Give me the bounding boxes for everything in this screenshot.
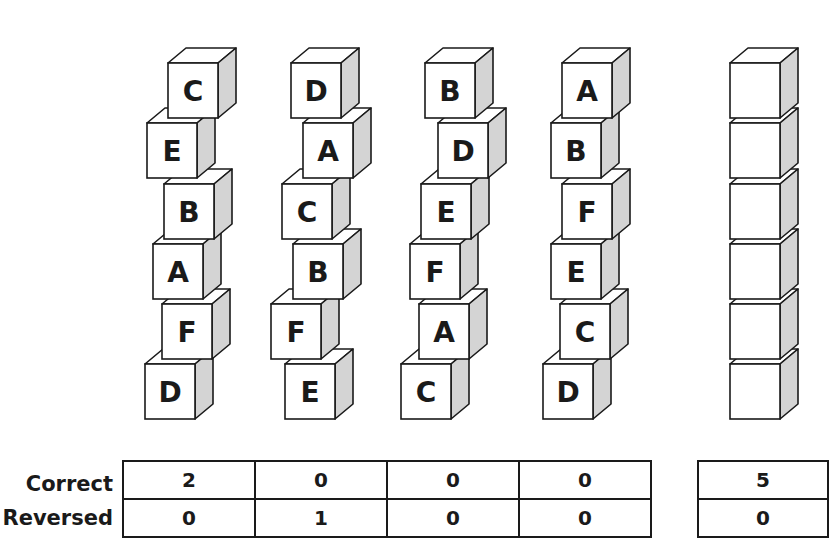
letter-block: B xyxy=(164,169,232,239)
stack-1: DFABEC xyxy=(145,48,236,419)
block-front-face xyxy=(730,244,780,299)
letter-block xyxy=(730,169,798,239)
target-correct-cell: 5 xyxy=(698,461,828,499)
block-letter: B xyxy=(307,256,328,289)
correct-cell: 0 xyxy=(255,461,387,499)
letter-block: B xyxy=(425,48,493,118)
block-front-face xyxy=(730,184,780,239)
letter-block: D xyxy=(291,48,359,118)
block-letter: A xyxy=(576,75,598,108)
block-letter: A xyxy=(433,316,455,349)
stack-target xyxy=(730,48,798,419)
letter-block: A xyxy=(562,48,630,118)
letter-block xyxy=(730,48,798,118)
block-letter: C xyxy=(575,316,596,349)
row-label-correct: Correct xyxy=(26,474,113,495)
block-front-face xyxy=(730,123,780,178)
block-letter: B xyxy=(178,196,199,229)
correct-row: 2 0 0 0 xyxy=(123,461,651,499)
scores-table: 2 0 0 0 0 1 0 0 xyxy=(122,460,652,538)
block-letter: E xyxy=(566,256,585,289)
target-scores-table: 5 0 xyxy=(697,460,829,538)
block-letter: D xyxy=(158,376,181,409)
block-letter: D xyxy=(304,75,327,108)
block-letter: D xyxy=(451,135,474,168)
block-letter: D xyxy=(556,376,579,409)
letter-block: C xyxy=(168,48,236,118)
block-letter: E xyxy=(300,376,319,409)
block-letter: C xyxy=(183,75,204,108)
reversed-cell: 0 xyxy=(519,499,651,537)
block-letter: A xyxy=(317,135,339,168)
correct-cell: 2 xyxy=(123,461,255,499)
row-label-reversed: Reversed xyxy=(3,508,113,529)
block-letter: B xyxy=(439,75,460,108)
block-letter: A xyxy=(167,256,189,289)
correct-cell: 0 xyxy=(387,461,519,499)
block-letter: B xyxy=(565,135,586,168)
letter-block: E xyxy=(421,169,489,239)
block-letter: C xyxy=(416,376,437,409)
target-reversed-row: 0 xyxy=(698,499,828,537)
target-correct-row: 5 xyxy=(698,461,828,499)
target-reversed-cell: 0 xyxy=(698,499,828,537)
block-letter: E xyxy=(162,135,181,168)
block-letter: F xyxy=(286,316,305,349)
reversed-cell: 1 xyxy=(255,499,387,537)
block-front-face xyxy=(730,364,780,419)
letter-block: C xyxy=(282,169,350,239)
letter-block: F xyxy=(562,169,630,239)
stack-4: DCEFBA xyxy=(543,48,630,419)
reversed-cell: 0 xyxy=(123,499,255,537)
correct-cell: 0 xyxy=(519,461,651,499)
stack-3: CAFEDB xyxy=(401,48,506,419)
stack-2: EFBCAD xyxy=(271,48,371,419)
reversed-row: 0 1 0 0 xyxy=(123,499,651,537)
block-letter: E xyxy=(436,196,455,229)
block-letter: F xyxy=(577,196,596,229)
block-front-face xyxy=(730,304,780,359)
reversed-cell: 0 xyxy=(387,499,519,537)
block-letter: F xyxy=(177,316,196,349)
block-front-face xyxy=(730,63,780,118)
block-letter: C xyxy=(297,196,318,229)
block-letter: F xyxy=(425,256,444,289)
